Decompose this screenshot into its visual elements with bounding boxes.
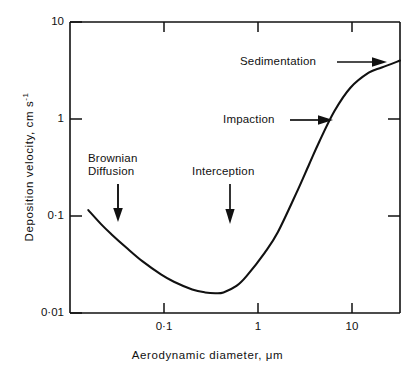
annotation-impaction: Impaction [223, 113, 275, 126]
x-tick-label-10: 10 [322, 320, 382, 332]
x-axis-title: Aerodynamic diameter, μm [0, 349, 415, 361]
annotation-sedimentation-line1: Sedimentation [240, 55, 316, 68]
x-tick-label-1: 1 [228, 320, 288, 332]
deposition-velocity-chart: 10 1 0·1 0·01 0·1 1 10 Deposition veloci… [0, 0, 415, 377]
annotation-impaction-line1: Impaction [223, 113, 275, 126]
y-tick-label-10: 10 [18, 15, 64, 27]
annotation-brownian-diffusion-line2: Diffusion [88, 165, 138, 178]
y-axis-title-text: Deposition velocity, cm s [23, 101, 35, 242]
annotation-interception: Interception [192, 165, 255, 178]
annotation-interception-line1: Interception [192, 165, 255, 178]
y-tick-label-0.01: 0·01 [12, 306, 64, 318]
annotation-sedimentation: Sedimentation [240, 55, 316, 68]
annotation-brownian-diffusion-line1: Brownian [88, 152, 138, 165]
y-axis-title-exponent: -1 [21, 92, 30, 100]
x-tick-label-0.1: 0·1 [134, 320, 194, 332]
y-axis-title: Deposition velocity, cm s-1 [21, 57, 35, 277]
annotation-brownian-diffusion: Brownian Diffusion [88, 152, 138, 177]
